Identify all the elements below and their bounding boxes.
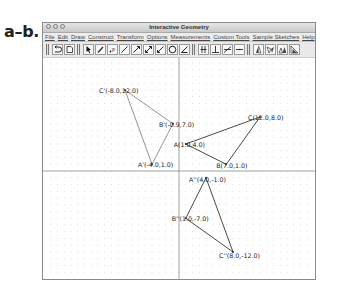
window-title: Interactive Geometry: [43, 23, 315, 32]
toolbar-grip[interactable]: [46, 44, 49, 55]
translate-tool-button[interactable]: [277, 44, 288, 55]
toolbar-grip[interactable]: [247, 44, 250, 55]
pencil-icon: [96, 45, 105, 54]
point-tool-button[interactable]: P: [107, 44, 118, 55]
title-bar: Interactive Geometry: [43, 23, 315, 33]
parallel-tool-button[interactable]: [198, 44, 209, 55]
dilate-tool-button[interactable]: [289, 44, 300, 55]
line-tool-button[interactable]: [143, 44, 154, 55]
parallel-icon: [199, 45, 208, 54]
point-label: C(12.0,8.0): [248, 114, 283, 121]
select-arrow-icon: [84, 45, 93, 54]
point-label: A'(-4.0,1.0): [138, 161, 173, 168]
toolbar: P: [43, 42, 315, 58]
menu-options[interactable]: Options: [147, 33, 168, 41]
midpoint-tool-button[interactable]: [234, 44, 245, 55]
rotate-icon: [266, 45, 275, 54]
point-label: A(1.0,4.0): [174, 141, 205, 148]
dilate-icon: [290, 45, 299, 54]
point-icon: P: [108, 45, 117, 54]
menu-bar: File Edit Draw Construct Transform Optio…: [43, 33, 315, 42]
point-label: B(7.0,1.0): [216, 162, 247, 169]
segment-icon: [120, 45, 129, 54]
menu-custom-tools[interactable]: Custom Tools: [213, 33, 249, 41]
toolbar-grip[interactable]: [192, 44, 195, 55]
angle-icon: [180, 45, 189, 54]
menu-measurements[interactable]: Measurements: [171, 33, 211, 41]
point-label: C'(-8.0,12.0): [99, 87, 138, 94]
figure-label: a–b.: [4, 22, 39, 41]
pencil-tool-button[interactable]: [95, 44, 106, 55]
circle-tool-button[interactable]: [167, 44, 178, 55]
menu-transform[interactable]: Transform: [117, 33, 144, 41]
translate-icon: [278, 45, 287, 54]
bisector-tool-button[interactable]: [222, 44, 233, 55]
ray-tool-button[interactable]: [131, 44, 142, 55]
reflect-tool-button[interactable]: [253, 44, 264, 55]
midpoint-icon: [235, 45, 244, 54]
perpendicular-tool-button[interactable]: [210, 44, 221, 55]
rotate-tool-button[interactable]: [265, 44, 276, 55]
perpendicular-icon: [211, 45, 220, 54]
line-icon: [144, 45, 153, 54]
undo-icon: [53, 45, 62, 54]
redo-button[interactable]: [64, 44, 75, 55]
vector-tool-button[interactable]: [155, 44, 166, 55]
ray-icon: [132, 45, 141, 54]
angle-tool-button[interactable]: [179, 44, 190, 55]
point-label: C''(8.0,-12.0): [219, 252, 260, 259]
menu-sample-sketches[interactable]: Sample Sketches: [252, 33, 299, 41]
point-label: B''(1.0,-7.0): [172, 215, 209, 222]
coordinate-plane[interactable]: A(1.0,4.0)B(7.0,1.0)C(12.0,8.0)A'(-4.0,1…: [43, 58, 315, 280]
select-tool-button[interactable]: [83, 44, 94, 55]
menu-help[interactable]: Help: [302, 33, 314, 41]
menu-edit[interactable]: Edit: [58, 33, 68, 41]
interactive-geometry-window: Interactive Geometry File Edit Draw Cons…: [42, 22, 316, 280]
drawing-canvas[interactable]: A(1.0,4.0)B(7.0,1.0)C(12.0,8.0)A'(-4.0,1…: [43, 57, 315, 279]
reflect-icon: [254, 45, 263, 54]
point-label: B'(-0.9,7.0): [159, 121, 194, 128]
vector-icon: [156, 45, 165, 54]
undo-button[interactable]: [52, 44, 63, 55]
svg-text:P: P: [112, 47, 115, 53]
redo-icon: [65, 45, 74, 54]
point-label: A''(4.0,-1.0): [189, 176, 226, 183]
toolbar-grip[interactable]: [77, 44, 80, 55]
menu-draw[interactable]: Draw: [71, 33, 85, 41]
menu-file[interactable]: File: [45, 33, 55, 41]
menu-construct[interactable]: Construct: [88, 33, 114, 41]
circle-icon: [168, 45, 177, 54]
segment-tool-button[interactable]: [119, 44, 130, 55]
bisector-icon: [223, 45, 232, 54]
